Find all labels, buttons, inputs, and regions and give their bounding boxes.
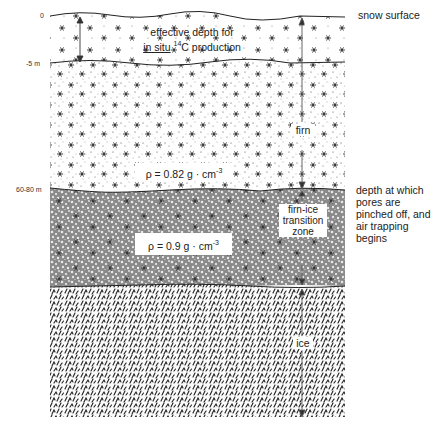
depth-label-surface: 0 (40, 10, 44, 21)
transition-zone-label: firn-ice transition zone (279, 204, 327, 237)
depth-label-5m: -5 m (26, 58, 40, 69)
ice-density-label: ρ = 0.9 g · cm-3 (135, 233, 232, 255)
in-situ-text: in situ (143, 41, 170, 53)
pore-closure-note: depth at which pores are pinched off, an… (356, 184, 435, 244)
ice-core-diagram: 0 -5 m 60-80 m effective depth for in si… (0, 0, 435, 438)
effective-depth-line1: effective depth for (142, 26, 242, 38)
snow-surface-label: snow surface (358, 10, 420, 21)
firn-density-label: ρ = 0.82 g · cm-3 (135, 163, 233, 180)
effective-depth-line2: in situ 14C production (142, 38, 242, 53)
ice-label: ice (293, 337, 313, 349)
firn-label: firn (291, 124, 315, 136)
depth-label-60-80m: 60-80 m (16, 184, 42, 195)
effective-depth-annotation: effective depth for in situ 14C producti… (142, 26, 242, 53)
production-text: C production (181, 41, 241, 53)
